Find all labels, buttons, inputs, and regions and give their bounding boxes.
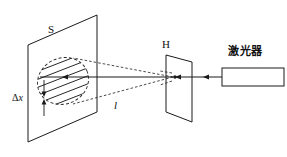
laser-source-label: 激光器	[228, 46, 263, 57]
laser-source-box	[222, 68, 284, 86]
distance-label: l	[114, 100, 117, 111]
slit-plate-label: H	[162, 39, 170, 50]
diffracted-ray-envelope	[73, 58, 173, 104]
diagram-canvas	[0, 0, 287, 157]
physics-diagram-figure: S H 激光器 l Δx	[0, 0, 287, 157]
double-slit-plate-shape	[166, 55, 192, 122]
fringe-spacing-label: Δx	[12, 93, 23, 103]
laser-beam-axis	[40, 74, 222, 79]
x-symbol: x	[18, 92, 22, 103]
screen-label: S	[48, 24, 54, 35]
